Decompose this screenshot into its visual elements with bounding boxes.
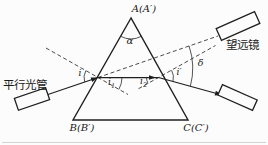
incident-ray xyxy=(48,78,98,95)
telescope-box-deviated xyxy=(218,85,257,111)
exit-ray xyxy=(159,78,223,96)
deviation-angle-label: δ xyxy=(198,57,204,68)
refraction-angle-1-sub: 1 xyxy=(111,82,115,90)
vertex-a-label: A(A′) xyxy=(131,3,157,14)
entry-face-normal-line xyxy=(46,48,128,95)
collimator-label: 平行光管 xyxy=(3,78,47,91)
incidence-angle-label: i xyxy=(79,68,82,78)
vertex-c-label: C(C′) xyxy=(183,122,208,133)
apex-angle-label: α xyxy=(127,35,134,46)
telescope-label: 望远镜 xyxy=(226,38,260,51)
refraction-angle-1-arc xyxy=(119,78,122,90)
collimator-box xyxy=(14,88,49,111)
prism-spectrometer-figure: A(A′) α B(B′) C(C′) i i1 i2 i′ δ 平行光管 望远… xyxy=(0,0,268,145)
exit-angle-label: i′ xyxy=(177,67,182,77)
incidence-angle-arc xyxy=(84,71,86,82)
vertex-b-label: B(B′) xyxy=(69,122,95,133)
refraction-angle-1-label: i1 xyxy=(108,77,115,90)
internal-ray-arrowhead-icon xyxy=(149,75,156,80)
deviation-angle-arc xyxy=(189,46,193,86)
prism-triangle xyxy=(73,18,188,120)
refraction-angle-2-sub: 2 xyxy=(142,81,147,89)
exit-angle-arc xyxy=(172,70,174,81)
telescope-box-undeviated xyxy=(216,12,260,41)
